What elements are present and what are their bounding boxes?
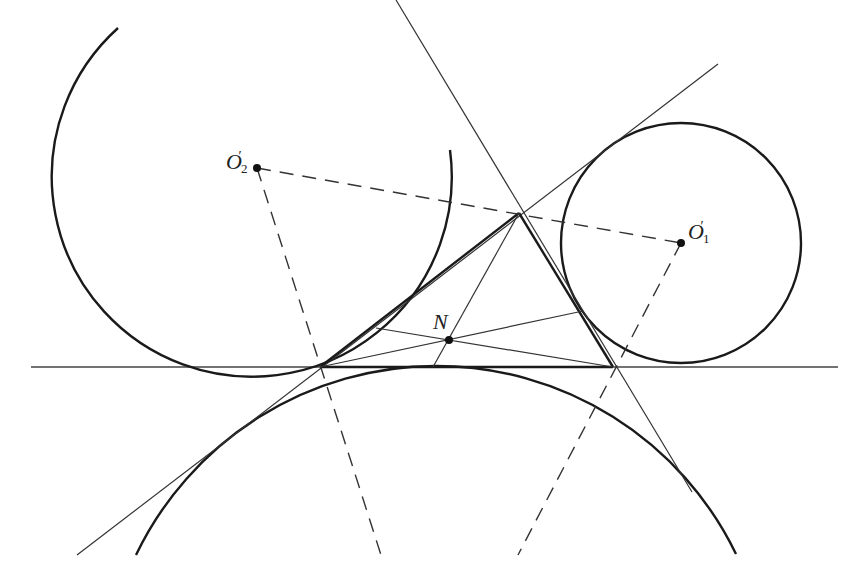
label-n: N — [433, 311, 448, 333]
circle-o2-prime — [52, 28, 452, 377]
triangle-side-ac — [320, 213, 519, 367]
label-n-letter: N — [433, 309, 448, 334]
triangle-side-cb — [519, 213, 613, 367]
tangent-line-through-a — [77, 64, 718, 555]
label-o1-subscript: 1 — [703, 231, 710, 246]
dashed-o2-o1 — [257, 168, 681, 243]
point-o2-prime — [253, 164, 261, 172]
dashed-o1-down — [518, 243, 681, 555]
label-o2-prime: O2′ — [226, 150, 241, 175]
point-n — [445, 336, 453, 344]
dashed-o2-down — [257, 168, 381, 555]
label-o2-prime-mark: ′ — [238, 149, 241, 164]
point-o1-prime — [677, 239, 685, 247]
circle-bottom-arc — [136, 366, 736, 555]
label-o1-prime: O1′ — [688, 220, 703, 245]
label-o2-subscript: 2 — [241, 161, 248, 176]
geometry-diagram — [0, 0, 860, 586]
label-o1-prime-mark: ′ — [700, 219, 703, 234]
